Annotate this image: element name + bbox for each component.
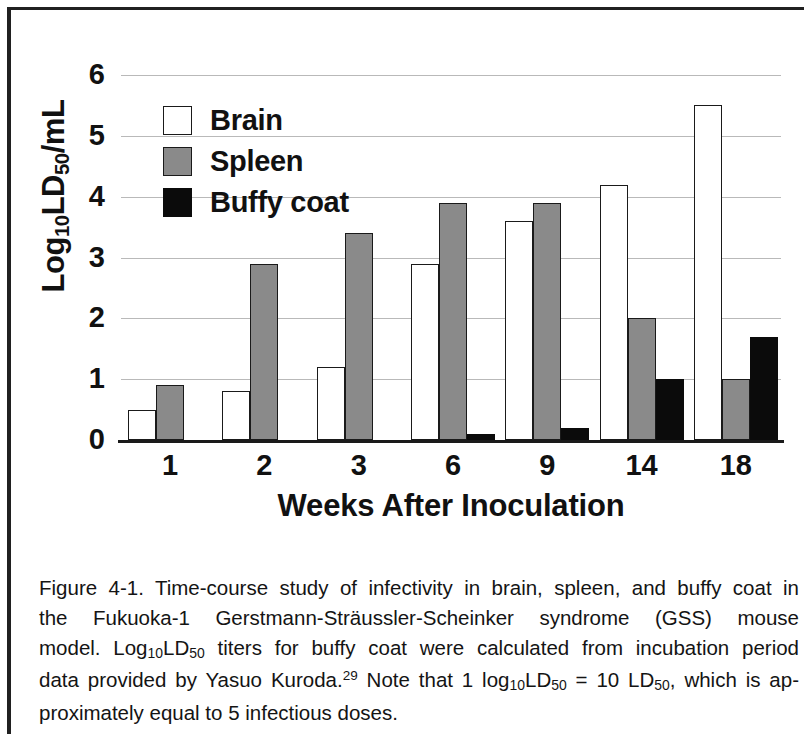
- caption-reference-marker: 29: [343, 668, 358, 683]
- bar-group-week-6: [411, 75, 495, 440]
- chart-legend: Brain Spleen Buffy coat: [163, 100, 349, 223]
- bar-spleen-week-3: [345, 233, 373, 440]
- y-tick-label-1: 1: [89, 364, 105, 393]
- bar-spleen-week-1: [156, 385, 184, 440]
- bar-spleen-week-9: [533, 203, 561, 440]
- figure-frame: Log10LD50/mL 0123456 123691418 Weeks Aft…: [7, 7, 804, 734]
- legend-item-spleen: Spleen: [163, 141, 349, 182]
- caption-line-2-text: the Fukuoka-1 Gerstmann-Sträussler-Schei…: [39, 606, 799, 629]
- bar-brain-week-6: [411, 264, 439, 440]
- bar-group-week-9: [505, 75, 589, 440]
- bar-brain-week-2: [222, 391, 250, 440]
- figure-caption: Figure 4-1. Time-course study of infecti…: [39, 573, 799, 728]
- caption-line-4: data provided by Yasuo Kuroda.29 Note th…: [39, 668, 799, 691]
- x-tick-label-2: 2: [256, 449, 272, 482]
- x-axis-line: [118, 440, 784, 443]
- y-tick-label-6: 6: [89, 60, 105, 89]
- bar-brain-week-3: [317, 367, 345, 440]
- bar-spleen-week-14: [628, 318, 656, 440]
- bar-brain-week-14: [600, 185, 628, 441]
- bar-brain-week-9: [505, 221, 533, 440]
- y-tick-label-3: 3: [89, 242, 105, 271]
- caption-line-3-text-c: titers for buffy coat were calculated fr…: [205, 636, 799, 659]
- legend-swatch-brain-icon: [163, 106, 192, 135]
- caption-line-1: Figure 4-1. Time-course study of infecti…: [39, 576, 799, 599]
- y-axis-title-ld: LD: [36, 175, 71, 215]
- y-axis-title-sub-50: 50: [50, 153, 73, 175]
- caption-line-2: the Fukuoka-1 Gerstmann-Sträussler-Schei…: [39, 606, 799, 629]
- caption-line-5-text: proximately equal to 5 infectious doses.: [39, 701, 398, 724]
- legend-label-spleen: Spleen: [210, 145, 303, 178]
- caption-line-4-sub-50b: 50: [654, 677, 670, 693]
- legend-swatch-spleen-icon: [163, 147, 192, 176]
- bar-spleen-week-18: [722, 379, 750, 440]
- caption-line-4-sub-50a: 50: [551, 677, 567, 693]
- caption-line-4-sub-10: 10: [509, 677, 525, 693]
- caption-line-3: model. Log10LD50 titers for buffy coat w…: [39, 636, 799, 659]
- bar-brain-week-18: [694, 105, 722, 440]
- caption-line-4-text-c: LD: [525, 668, 551, 691]
- bar-buffy-week-14: [656, 379, 684, 440]
- bar-buffy-week-6: [467, 434, 495, 440]
- bar-buffy-week-18: [750, 337, 778, 440]
- y-axis-title-unit: /mL: [36, 100, 71, 154]
- bar-chart: Log10LD50/mL 0123456 123691418 Weeks Aft…: [11, 10, 808, 515]
- legend-label-brain: Brain: [210, 104, 283, 137]
- y-tick-label-5: 5: [89, 121, 105, 150]
- bar-spleen-week-2: [250, 264, 278, 440]
- caption-line-3-sub-50: 50: [189, 645, 205, 661]
- caption-line-4-text-e: , which is ap-: [670, 668, 799, 691]
- x-tick-label-9: 9: [539, 449, 555, 482]
- caption-line-4-text-a: data provided by Yasuo Kuroda.: [39, 668, 343, 691]
- caption-line-4-text-b: Note that 1 log: [358, 668, 510, 691]
- legend-item-buffy-coat: Buffy coat: [163, 182, 349, 223]
- caption-line-3-sub-10: 10: [148, 645, 164, 661]
- y-tick-label-4: 4: [89, 182, 105, 211]
- x-tick-label-14: 14: [625, 449, 657, 482]
- x-axis-title: Weeks After Inoculation: [121, 488, 781, 524]
- legend-swatch-buffy-coat-icon: [163, 188, 192, 217]
- bar-buffy-week-9: [561, 428, 589, 440]
- y-axis-title-sub-10: 10: [50, 215, 73, 237]
- caption-line-1-text: Figure 4-1. Time-course study of infecti…: [39, 576, 799, 599]
- y-tick-label-2: 2: [89, 303, 105, 332]
- x-tick-label-18: 18: [720, 449, 752, 482]
- caption-line-5: proximately equal to 5 infectious doses.: [39, 701, 398, 724]
- y-axis-title: Log10LD50/mL: [36, 81, 72, 311]
- bar-spleen-week-6: [439, 203, 467, 440]
- y-axis-title-log: Log: [36, 237, 71, 292]
- bar-brain-week-1: [128, 410, 156, 440]
- bar-group-week-18: [694, 75, 778, 440]
- y-tick-label-0: 0: [89, 425, 105, 454]
- legend-label-buffy-coat: Buffy coat: [210, 186, 349, 219]
- caption-line-4-text-d: = 10 LD: [567, 668, 655, 691]
- caption-line-3-text-a: model. Log: [39, 636, 148, 659]
- bar-group-week-14: [600, 75, 684, 440]
- x-tick-label-3: 3: [351, 449, 367, 482]
- x-tick-label-6: 6: [445, 449, 461, 482]
- caption-line-3-text-b: LD: [163, 636, 189, 659]
- legend-item-brain: Brain: [163, 100, 349, 141]
- x-tick-label-1: 1: [162, 449, 178, 482]
